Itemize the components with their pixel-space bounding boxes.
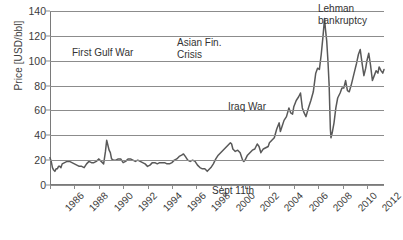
x-tick-label: 1986 (63, 190, 87, 214)
annotation-line: bankruptcy (318, 15, 367, 27)
y-tick-label: 140 (18, 5, 46, 17)
y-tick-mark (46, 135, 50, 136)
y-tick-label: 60 (18, 104, 46, 116)
annotation-iraq-war: Iraq War (228, 101, 266, 113)
x-tick-label: 2006 (306, 190, 330, 214)
x-tick-label: 1992 (136, 190, 160, 214)
y-tick-label: 20 (18, 154, 46, 166)
x-tick-label: 2002 (258, 190, 282, 214)
annotation-first-gulf-war: First Gulf War (72, 47, 133, 59)
x-tick-label: 2010 (355, 190, 379, 214)
annotation-asian-financial-crisis: Asian Fin.Crisis (177, 37, 221, 60)
y-tick-label: 100 (18, 55, 46, 67)
annotation-line: Lehman (318, 3, 367, 15)
gridline (50, 110, 384, 111)
x-tick-label: 2008 (331, 190, 355, 214)
gridline (50, 86, 384, 87)
annotation-sept-11th: Sept 11th (212, 185, 254, 197)
y-tick-mark (46, 60, 50, 61)
annotation-lehman-bankruptcy: Lehmanbankruptcy (318, 3, 367, 26)
x-tick-label: 1994 (160, 190, 184, 214)
y-tick-mark (46, 160, 50, 161)
gridline (50, 61, 384, 62)
annotation-line: Sept 11th (212, 185, 254, 197)
y-tick-label: 40 (18, 129, 46, 141)
annotation-line: Asian Fin. (177, 37, 221, 49)
x-tick-label: 2004 (282, 190, 306, 214)
y-tick-mark (46, 35, 50, 36)
y-tick-label: 0 (18, 179, 46, 191)
y-tick-mark (46, 85, 50, 86)
annotation-line: Crisis (177, 49, 221, 61)
y-tick-label: 120 (18, 30, 46, 42)
annotation-line: Iraq War (228, 101, 266, 113)
x-tick-label: 1988 (87, 190, 111, 214)
y-tick-label: 80 (18, 80, 46, 92)
gridline (50, 160, 384, 161)
x-tick-label: 2012 (379, 190, 403, 214)
annotation-line: First Gulf War (72, 47, 133, 59)
y-axis-tick-labels: 020406080100120140 (12, 0, 46, 240)
gridline (50, 135, 384, 136)
x-tick-label: 1996 (184, 190, 208, 214)
x-tick-label: 1990 (111, 190, 135, 214)
y-tick-mark (46, 110, 50, 111)
y-tick-mark (46, 11, 50, 12)
